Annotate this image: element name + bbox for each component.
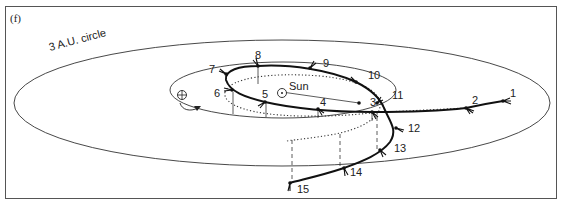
point-label-15: 15 xyxy=(297,183,309,195)
point-label-11: 11 xyxy=(392,89,403,101)
point-label-4: 4 xyxy=(320,96,326,108)
point-labels: 1 2 3 4 5 6 7 8 9 10 11 12 13 14 15 xyxy=(209,49,516,195)
point-label-13: 13 xyxy=(394,142,406,154)
panel-label: (f) xyxy=(10,12,21,25)
orbit-diagram: Sun (f) 3 A.U. circle 1 2 3 4 5 6 7 8 9 … xyxy=(0,0,563,206)
point-label-5: 5 xyxy=(262,88,268,100)
point-label-2: 2 xyxy=(472,94,478,106)
point-label-7: 7 xyxy=(209,63,215,75)
point-label-6: 6 xyxy=(214,87,220,99)
point-label-3: 3 xyxy=(370,96,376,108)
trajectory-projection xyxy=(225,75,466,141)
point-label-1: 1 xyxy=(510,87,516,99)
drop-lines xyxy=(292,117,377,183)
point-label-14: 14 xyxy=(350,166,362,178)
three-au-circle xyxy=(14,40,550,166)
three-au-label: 3 A.U. circle xyxy=(47,26,107,53)
point-label-12: 12 xyxy=(408,122,420,134)
point-label-10: 10 xyxy=(368,69,380,81)
sun-label: Sun xyxy=(289,80,309,92)
point-label-9: 9 xyxy=(323,57,329,69)
comet-tail-markers xyxy=(219,58,511,191)
